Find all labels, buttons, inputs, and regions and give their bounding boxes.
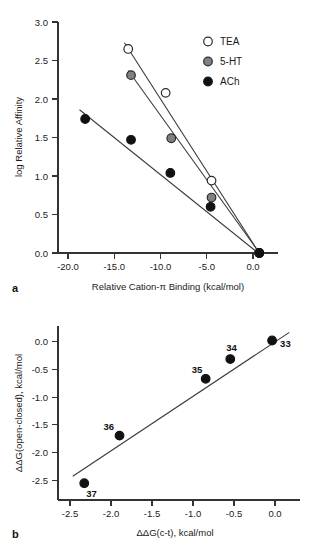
- fit-line-5-ht: [128, 71, 261, 256]
- panel-a-ylabel: log Relative Affinity: [13, 97, 24, 177]
- panel-b-plot: -2.5 -2.0 -1.5 -1.0 -0.5 0.0 -2.5 -2.0 -…: [0, 300, 319, 552]
- panel-a-xtick-0: -20.0: [57, 261, 79, 272]
- point-label-35: 35: [192, 364, 203, 375]
- data-point-tea: [207, 176, 216, 185]
- panel-b-x-ticks: [70, 500, 275, 506]
- data-point-5-ht: [127, 71, 136, 80]
- data-point-ach: [81, 115, 90, 124]
- data-point-37: [80, 479, 89, 488]
- panel-b-fit-lines: [73, 332, 290, 476]
- panel-b-ytick-4: -0.5: [32, 364, 48, 375]
- panel-b-xtick-5: 0.0: [268, 508, 281, 519]
- data-point-5-ht: [167, 134, 176, 143]
- panel-a-xtick-4: 0.0: [246, 261, 259, 272]
- panel-a-ytick-3: 1.5: [35, 132, 48, 143]
- panel-b-letter: b: [12, 528, 19, 540]
- panel-a-ytick-1: 0.5: [35, 209, 48, 220]
- legend-marker-ach: [204, 77, 213, 86]
- panel-b-ytick-5: 0.0: [35, 336, 48, 347]
- panel-b-ylabel: ΔΔG(open-closed), kcal/mol: [13, 354, 24, 472]
- panel-a-ytick-4: 2.0: [35, 94, 48, 105]
- fit-line-tea: [124, 43, 261, 256]
- panel-a-ytick-6: 3.0: [35, 17, 48, 28]
- data-point-ach: [166, 169, 175, 178]
- panel-a-legend: TEA5-HTACh: [204, 36, 243, 87]
- panel-a-ytick-5: 2.5: [35, 55, 48, 66]
- panel-a-plot: 0.0 0.5 1.0 1.5 2.0 2.5 3.0 -20.0 -15.0 …: [0, 0, 319, 300]
- panel-b-xtick-2: -1.5: [144, 508, 160, 519]
- panel-b-xlabel: ΔΔG(c-t), kcal/mol: [136, 527, 213, 538]
- panel-b-ytick-0: -2.5: [32, 475, 48, 486]
- panel-b-xtick-3: -1.0: [185, 508, 201, 519]
- panel-b-y-ticks: [52, 342, 58, 481]
- panel-b-point-labels: 3334353637: [86, 338, 290, 500]
- legend-label-tea: TEA: [220, 36, 240, 47]
- panel-a-xtick-3: -5.0: [199, 261, 215, 272]
- data-point-5-ht: [207, 193, 216, 202]
- data-point-tea: [161, 89, 170, 98]
- point-label-34: 34: [226, 342, 237, 353]
- data-point-34: [226, 355, 235, 364]
- point-label-37: 37: [86, 488, 97, 499]
- legend-marker-tea: [204, 37, 213, 46]
- panel-a-fit-lines: [80, 43, 262, 256]
- panel-a-x-ticks: [68, 253, 253, 259]
- panel-b-ytick-2: -1.5: [32, 419, 48, 430]
- point-label-36: 36: [104, 421, 115, 432]
- panel-b-xtick-4: -0.5: [226, 508, 242, 519]
- panel-b-ytick-3: -1.0: [32, 392, 48, 403]
- data-point-ach: [255, 249, 264, 258]
- data-point-36: [115, 431, 124, 440]
- legend-label-ach: ACh: [220, 76, 239, 87]
- data-point-ach: [206, 203, 215, 212]
- fit-line-mutants: [73, 332, 290, 476]
- data-point-33: [268, 336, 277, 345]
- data-point-35: [201, 374, 210, 383]
- panel-a: 0.0 0.5 1.0 1.5 2.0 2.5 3.0 -20.0 -15.0 …: [0, 0, 319, 300]
- panel-b-data-points: [80, 336, 276, 487]
- panel-a-y-ticks: [52, 22, 58, 253]
- panel-a-ytick-0: 0.0: [35, 248, 48, 259]
- panel-b-xtick-0: -2.5: [62, 508, 78, 519]
- legend-label-5-ht: 5-HT: [220, 56, 242, 67]
- data-point-tea: [124, 45, 133, 54]
- panel-a-xtick-2: -10.0: [150, 261, 172, 272]
- fit-line-ach: [80, 110, 262, 256]
- legend-marker-5-ht: [204, 57, 213, 66]
- panel-a-xlabel: Relative Cation-π Binding (kcal/mol): [92, 281, 244, 292]
- figure-container: 0.0 0.5 1.0 1.5 2.0 2.5 3.0 -20.0 -15.0 …: [0, 0, 319, 552]
- point-label-33: 33: [280, 338, 291, 349]
- data-point-ach: [127, 136, 136, 145]
- panel-b: -2.5 -2.0 -1.5 -1.0 -0.5 0.0 -2.5 -2.0 -…: [0, 300, 319, 552]
- panel-a-ytick-2: 1.0: [35, 171, 48, 182]
- panel-a-letter: a: [12, 282, 19, 294]
- panel-a-xtick-1: -15.0: [103, 261, 125, 272]
- panel-b-ytick-1: -2.0: [32, 447, 48, 458]
- panel-b-xtick-1: -2.0: [103, 508, 119, 519]
